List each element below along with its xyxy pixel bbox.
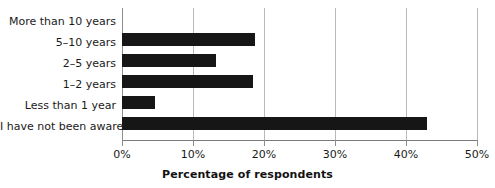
plot-area: [122, 8, 477, 140]
gridline-50: [477, 8, 478, 140]
bar-chart: More than 10 years 5–10 years 2–5 years …: [0, 0, 495, 188]
bar-less-than-1-year: [122, 96, 155, 109]
x-tick-40: [406, 140, 407, 146]
x-tick-label-20: 20%: [234, 148, 294, 161]
x-axis-line: [122, 140, 478, 141]
bar-5-10-years: [122, 33, 255, 46]
bar-1-2-years: [122, 75, 253, 88]
x-tick-20: [264, 140, 265, 146]
x-axis-title: Percentage of respondents: [0, 168, 495, 181]
x-tick-10: [193, 140, 194, 146]
bar-2-5-years: [122, 54, 216, 67]
bar-i-have-not-been-aware: [122, 117, 427, 130]
y-label-1-2-years: 1–2 years: [0, 78, 116, 91]
x-tick-50: [477, 140, 478, 146]
y-label-more-than-10-years: More than 10 years: [0, 15, 116, 28]
x-tick-label-30: 30%: [305, 148, 365, 161]
y-label-i-have-not-been-aware: I have not been aware: [0, 120, 116, 133]
y-label-5-10-years: 5–10 years: [0, 36, 116, 49]
x-tick-label-10: 10%: [163, 148, 223, 161]
y-label-less-than-1-year: Less than 1 year: [0, 99, 116, 112]
x-tick-label-40: 40%: [376, 148, 436, 161]
x-tick-label-0: 0%: [92, 148, 152, 161]
x-tick-30: [335, 140, 336, 146]
x-tick-label-50: 50%: [447, 148, 495, 161]
x-tick-0: [122, 140, 123, 146]
y-label-2-5-years: 2–5 years: [0, 57, 116, 70]
